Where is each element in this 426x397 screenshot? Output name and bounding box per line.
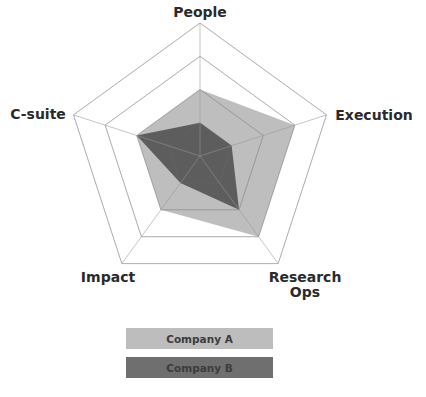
radar-spokes xyxy=(74,23,327,264)
axis-label-execution: Execution xyxy=(334,108,414,123)
axis-label-impact: Impact xyxy=(78,270,138,285)
legend-company-a[interactable]: Company A xyxy=(126,328,273,349)
axis-label-csuite: C-suite xyxy=(8,107,68,122)
axis-label-research-ops: Research Ops xyxy=(265,270,345,300)
legend-company-b[interactable]: Company B xyxy=(126,357,273,378)
legend-label-company-a: Company A xyxy=(166,333,233,345)
legend-label-company-b: Company B xyxy=(166,362,232,374)
axis-label-people: People xyxy=(170,5,230,20)
radar-series xyxy=(137,90,295,237)
